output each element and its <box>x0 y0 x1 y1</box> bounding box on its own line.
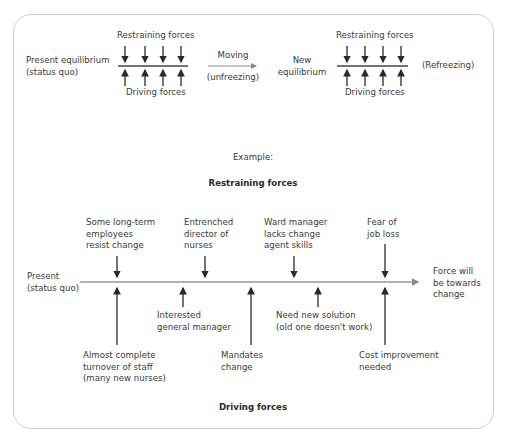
label-line: (status quo) <box>27 283 79 295</box>
driving-force-5: Cost improvement needed <box>359 350 439 373</box>
driving-forces-left-label: Driving forces <box>126 87 186 99</box>
present-equilibrium-label: Present equilibrium (status quo) <box>26 55 110 78</box>
new-eq-line-1: New <box>272 55 332 67</box>
label-line: needed <box>359 362 439 374</box>
example-label: Example: <box>203 152 303 164</box>
label-line: Mandates <box>221 350 263 362</box>
label-line: nurses <box>184 240 233 252</box>
refreezing-label: (Refreezing) <box>422 60 474 72</box>
driving-force-3: Mandates change <box>221 350 263 373</box>
restraining-forces-left-label: Restraining forces <box>117 30 195 42</box>
restraining-force-4: Fear of job loss <box>367 217 399 240</box>
label-line: resist change <box>86 240 155 252</box>
new-equilibrium-label: New equilibrium <box>272 55 332 78</box>
present-status-quo-label: Present (status quo) <box>27 271 79 294</box>
label-line: be towards <box>433 278 481 290</box>
label-line: change <box>221 362 263 374</box>
restraining-forces-right-label: Restraining forces <box>336 30 414 42</box>
driving-force-2: Interested general manager <box>157 310 231 333</box>
label-line: change <box>433 289 481 301</box>
label-line: employees <box>86 229 155 241</box>
driving-force-4: Need new solution (old one doesn't work) <box>276 310 372 333</box>
label-line: job loss <box>367 229 399 241</box>
new-eq-line-2: equilibrium <box>272 67 332 79</box>
label-line: Cost improvement <box>359 350 439 362</box>
restraining-forces-title: Restraining forces <box>183 178 323 190</box>
label-line: turnover of staff <box>83 362 166 374</box>
label-line: Fear of <box>367 217 399 229</box>
label-line: (many new nurses) <box>83 373 166 385</box>
label-line: director of <box>184 229 233 241</box>
label-line: Need new solution <box>276 310 372 322</box>
label-line: lacks change <box>264 229 327 241</box>
label-line: agent skills <box>264 240 327 252</box>
label-line: Interested <box>157 310 231 322</box>
label-line: (old one doesn't work) <box>276 322 372 334</box>
restraining-force-3: Ward manager lacks change agent skills <box>264 217 327 252</box>
restraining-force-2: Entrenched director of nurses <box>184 217 233 252</box>
unfreezing-label: (unfreezing) <box>203 72 263 84</box>
label-line: Some long-term <box>86 217 155 229</box>
label-line: Force will <box>433 266 481 278</box>
moving-label: Moving <box>205 50 261 62</box>
driving-forces-right-label: Driving forces <box>345 87 405 99</box>
label-line: general manager <box>157 322 231 334</box>
label-line: Present <box>27 271 79 283</box>
label-line: Almost complete <box>83 350 166 362</box>
label-line: Ward manager <box>264 217 327 229</box>
driving-forces-title: Driving forces <box>183 402 323 414</box>
restraining-force-1: Some long-term employees resist change <box>86 217 155 252</box>
label-line: Entrenched <box>184 217 233 229</box>
driving-force-1: Almost complete turnover of staff (many … <box>83 350 166 385</box>
present-line-2: (status quo) <box>26 67 110 79</box>
present-line-1: Present equilibrium <box>26 55 110 67</box>
outcome-label: Force will be towards change <box>433 266 481 301</box>
